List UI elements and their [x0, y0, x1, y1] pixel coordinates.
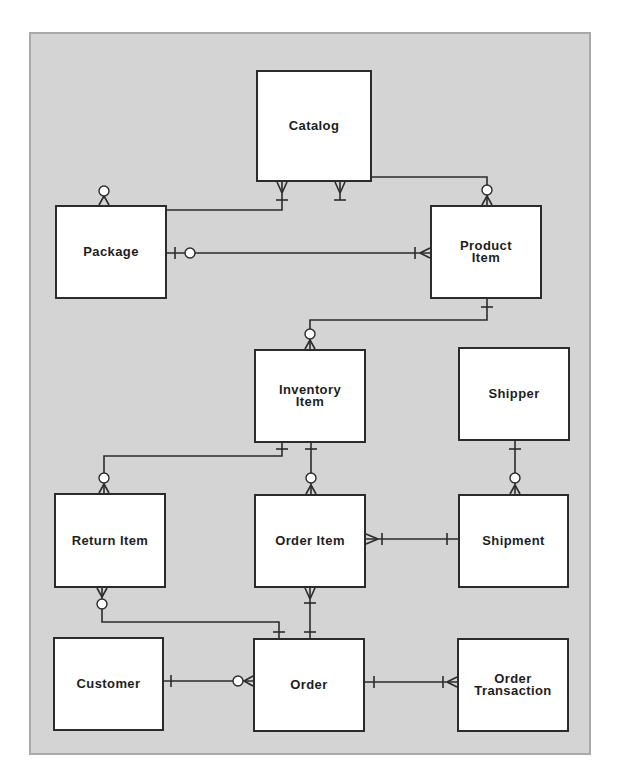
- relationship-product-item-inventory-item: [305, 299, 493, 349]
- entity-label: Return Item: [72, 535, 149, 547]
- relationship-customer-order: [164, 675, 253, 687]
- circle-zero-icon: [97, 599, 107, 609]
- entity-label: Shipper: [488, 388, 539, 400]
- circle-zero-icon: [99, 186, 109, 196]
- entity-order-transaction[interactable]: Order Transaction: [457, 638, 569, 732]
- entity-catalog[interactable]: Catalog: [256, 70, 372, 182]
- relationship-inventory-item-order-item: [305, 443, 317, 494]
- entity-order[interactable]: Order: [253, 638, 365, 732]
- circle-zero-icon: [99, 473, 109, 483]
- entity-return-item[interactable]: Return Item: [54, 493, 166, 588]
- circle-zero-icon: [482, 185, 492, 195]
- entity-label: Product Item: [460, 240, 512, 264]
- relationship-order-item-order: [304, 588, 316, 638]
- circle-zero-icon: [185, 248, 195, 258]
- entity-label: Order Item: [275, 535, 345, 547]
- relationship-shipper-shipment: [509, 441, 521, 494]
- circle-zero-icon: [510, 473, 520, 483]
- entity-label: Catalog: [289, 120, 339, 132]
- entity-label: Package: [83, 246, 139, 258]
- entity-product-item[interactable]: Product Item: [430, 205, 542, 299]
- entity-shipper[interactable]: Shipper: [458, 347, 570, 441]
- circle-zero-icon: [305, 329, 315, 339]
- entity-customer[interactable]: Customer: [53, 637, 164, 731]
- relationship-order-item-shipment: [366, 533, 458, 545]
- circle-zero-icon: [306, 473, 316, 483]
- entity-package[interactable]: Package: [55, 205, 167, 299]
- entity-label: Order: [290, 679, 327, 691]
- entity-order-item[interactable]: Order Item: [254, 494, 366, 588]
- entity-label: Inventory Item: [279, 384, 341, 408]
- entity-shipment[interactable]: Shipment: [458, 494, 569, 588]
- entity-label: Shipment: [482, 535, 544, 547]
- crow-foot-many-icon: [99, 196, 109, 205]
- relationship-inventory-item-return-item: [99, 443, 288, 493]
- relationship-package-product-item: [167, 247, 430, 259]
- entity-label: Customer: [77, 678, 141, 690]
- entity-label: Order Transaction: [474, 673, 551, 697]
- circle-zero-icon: [233, 676, 243, 686]
- entity-inventory-item[interactable]: Inventory Item: [254, 349, 366, 443]
- relationship-return-item-order: [97, 588, 285, 638]
- relationship-order-order-transaction: [365, 676, 457, 688]
